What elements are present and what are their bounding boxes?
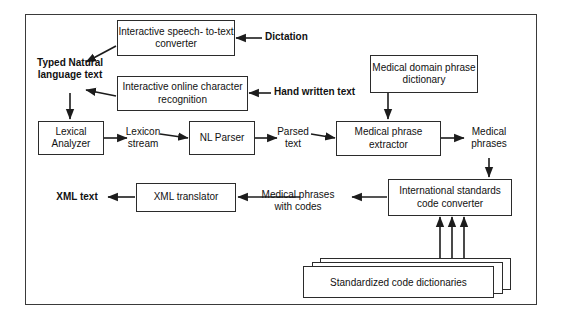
- label-medical-phrases: Medical phrases: [463, 126, 515, 150]
- label-medical-phrases-with-codes: Medical phrases with codes: [243, 189, 353, 213]
- node-standards-code-converter[interactable]: International standards code converter: [388, 179, 512, 216]
- label-typed-natural-language-text: Typed Natural language text: [16, 57, 124, 81]
- node-handwriting-recognition[interactable]: Interactive online character recognition: [117, 76, 248, 111]
- node-lexical-analyzer[interactable]: Lexical Analyzer: [38, 121, 104, 155]
- label-lexicon-stream: Lexicon stream: [120, 126, 166, 150]
- node-medical-domain-dictionary[interactable]: Medical domain phrase dictionary: [370, 55, 478, 93]
- label-parsed-text: Parsed text: [272, 126, 314, 150]
- node-speech-converter[interactable]: Interactive speech- to-text converter: [117, 20, 235, 56]
- node-standardized-dictionaries[interactable]: Standardized code dictionaries: [303, 266, 494, 298]
- label-xml-text: XML text: [48, 191, 106, 203]
- diagram-canvas: Interactive speech- to-text converter In…: [0, 0, 562, 329]
- label-dictation: Dictation: [265, 31, 345, 43]
- label-hand-written-text: Hand written text: [274, 86, 384, 98]
- node-medical-phrase-extractor[interactable]: Medical phrase extractor: [336, 121, 441, 156]
- node-nl-parser[interactable]: NL Parser: [189, 121, 255, 155]
- node-xml-translator[interactable]: XML translator: [136, 183, 236, 212]
